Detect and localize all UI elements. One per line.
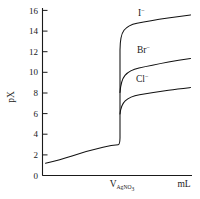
y-tick-label-12: 12 <box>29 47 38 57</box>
y-tick-label-10: 10 <box>29 67 39 77</box>
x-axis-equivalence-label: VAgNO3 <box>110 179 135 192</box>
titration-curve-plot: 0 2 4 6 8 10 12 14 16 pX I− Br− Cl− <box>0 0 200 199</box>
y-axis-tick-labels: 0 2 4 6 8 10 12 14 16 <box>29 6 39 181</box>
series-label-bromide: Br− <box>137 44 151 55</box>
y-tick-label-8: 8 <box>34 88 39 98</box>
series-label-bromide-charge: − <box>147 44 151 51</box>
chart-figure: 0 2 4 6 8 10 12 14 16 pX I− Br− Cl− <box>0 0 200 199</box>
y-axis-ticks <box>43 10 48 175</box>
series-label-iodide-charge: − <box>141 7 145 14</box>
y-tick-label-4: 4 <box>34 129 39 139</box>
curve-iodide <box>46 15 191 163</box>
y-tick-label-16: 16 <box>29 6 39 16</box>
y-tick-label-0: 0 <box>34 171 39 181</box>
y-tick-label-14: 14 <box>29 26 39 36</box>
series-label-iodide: I− <box>138 7 145 18</box>
x-axis-equivalence-subscript: AgNO <box>117 184 132 190</box>
series-label-chloride-charge: − <box>145 73 149 80</box>
series-label-chloride-text: Cl <box>136 74 145 84</box>
series-label-chloride: Cl− <box>136 73 149 84</box>
y-axis-title: pX <box>6 91 16 103</box>
x-axis-equivalence-subscript-number: 3 <box>132 186 135 192</box>
curve-chloride <box>120 88 191 114</box>
y-tick-label-6: 6 <box>34 109 39 119</box>
curve-bromide <box>120 59 191 93</box>
y-tick-label-2: 2 <box>34 150 39 160</box>
x-axis-units-label: mL <box>177 179 190 189</box>
